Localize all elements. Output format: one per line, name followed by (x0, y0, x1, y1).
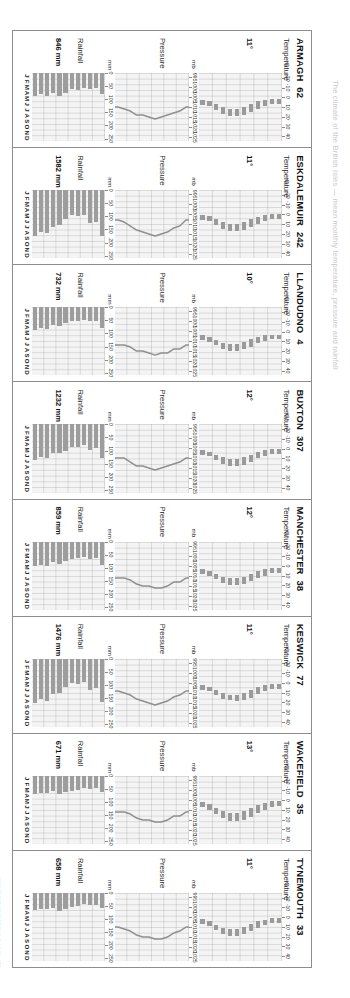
month-label: A (24, 348, 31, 352)
rainfall-axis-unit: mm (107, 646, 114, 656)
pressure-axis-tickmark (189, 957, 192, 958)
month-label: J (24, 894, 31, 897)
rainfall-bar (82, 307, 86, 320)
station-header: BUXTON307 (292, 384, 307, 496)
temperature-axis-tickmark (282, 332, 285, 333)
rainfall-axis-tick: 200 (108, 941, 114, 950)
temperature-range-bar (235, 224, 239, 231)
temperature-range-bar (249, 574, 253, 582)
month-axis: JFMAMJJASOND (21, 73, 32, 141)
rainfall-bar (63, 190, 67, 219)
rainfall-axis-tick: 250 (108, 368, 114, 377)
temperature-axis-tick: 10 (285, 338, 291, 344)
temperature-range-bar (270, 801, 274, 807)
temperature-range-bar (270, 449, 274, 454)
pressure-axis-tickmark (189, 800, 192, 801)
rainfall-axis-tick: 100 (108, 446, 114, 455)
rainfall-axis-tickmark (105, 802, 108, 803)
pressure-axis-tick: 995 (192, 775, 198, 784)
pressure-axis-tickmark (189, 224, 192, 225)
temperature-axis-tick: 0 (285, 213, 291, 216)
month-label: S (24, 119, 31, 123)
month-label: F (24, 197, 31, 201)
temperature-axis-tickmark (282, 361, 285, 362)
temperature-axis: °C403020100-10-20 (282, 190, 292, 258)
pressure-axis-tickmark (189, 137, 192, 138)
pressure-line (115, 893, 189, 961)
station-panel[interactable]: MANCHESTER38Temperature12°°C403020100-10… (13, 500, 311, 617)
temperature-axis-tickmark (282, 956, 285, 957)
temperature-range-bar (256, 217, 260, 224)
pressure-axis-tick: 995 (192, 73, 198, 82)
month-label: N (24, 950, 31, 954)
pressure-axis-tickmark (189, 703, 192, 704)
month-label: D (24, 253, 31, 257)
station-header: WAKEFIELD35 (292, 736, 307, 848)
temperature-axis-tick: -10 (285, 435, 291, 443)
pressure-chart: Pressuremb102510201015101010051000995 (115, 33, 199, 145)
temperature-range-bar (235, 578, 239, 585)
rainfall-bar (39, 776, 43, 793)
temperature-chart-label: Temperature (282, 38, 291, 81)
temperature-axis-tick: 40 (285, 719, 291, 725)
rainfall-bar (88, 424, 92, 450)
pressure-line (115, 542, 189, 610)
temperature-range-bar (256, 452, 260, 459)
temperature-range-bar (214, 690, 218, 695)
rainfall-bar (57, 893, 61, 911)
pressure-axis-tickmark (189, 438, 192, 439)
temperature-axis-tick: 30 (285, 358, 291, 364)
rainfall-axis-tickmark (105, 958, 108, 959)
temperature-axis-tick: 30 (285, 592, 291, 598)
rainfall-axis-unit: mm (107, 177, 114, 187)
rainfall-bar (100, 307, 104, 327)
month-label: N (24, 833, 31, 837)
rainfall-axis-tickmark (105, 229, 108, 230)
temperature-axis-tick: -10 (285, 669, 291, 677)
rainfall-bar (33, 659, 37, 704)
temperature-axis-tick: 30 (285, 709, 291, 715)
month-label: A (24, 699, 31, 703)
rainfall-axis: mm250200150100500 (105, 776, 115, 844)
rainfall-bar (76, 424, 80, 446)
temperature-axis-tick: 40 (285, 368, 291, 374)
month-label: A (24, 231, 31, 235)
temperature-axis-tickmark (282, 351, 285, 352)
temperature-range-bar (201, 802, 205, 807)
month-label: M (24, 670, 31, 675)
temperature-axis-tickmark (282, 927, 285, 928)
station-panel[interactable]: WAKEFIELD35Temperature13°°C403020100-10-… (13, 734, 311, 851)
station-panel[interactable]: LLANDUDNO4Temperature10°°C403020100-10-2… (13, 265, 311, 382)
station-header: TYNEMOUTH33 (292, 853, 307, 965)
station-panel[interactable]: ESKDALEMUIR242Temperature11°°C403020100-… (13, 148, 311, 265)
station-panel[interactable]: KESWICK77Temperature11°°C403020100-10-20… (13, 617, 311, 734)
pressure-plot (115, 776, 189, 844)
rainfall-bar (51, 424, 55, 453)
pressure-chart: Pressuremb102510201015101010051000995 (115, 150, 199, 262)
rainfall-bar (57, 190, 61, 225)
rainfall-axis-tickmark (105, 464, 108, 465)
station-altitude: 38 (295, 581, 306, 592)
month-label: F (24, 782, 31, 786)
station-name: ESKDALEMUIR (295, 155, 306, 226)
station-name: MANCHESTER (295, 507, 306, 575)
temperature-range-bar (256, 101, 260, 109)
pressure-plot (115, 659, 189, 727)
rainfall-axis-tick: 200 (108, 590, 114, 599)
rainfall-total-value: 658 mm (54, 858, 63, 886)
temperature-range-bar (249, 924, 253, 931)
rainfall-chart: Rainfall859 mmmm250200150100500JFMAMJJAS… (21, 502, 115, 614)
rainfall-bar (45, 424, 49, 458)
temperature-axis-tickmark (282, 205, 285, 206)
temperature-range-bar (270, 214, 274, 219)
rainfall-bar (100, 190, 104, 236)
station-panel[interactable]: TYNEMOUTH33Temperature11°°C403020100-10-… (13, 851, 311, 967)
rainfall-plot (32, 190, 105, 258)
station-panel[interactable]: BUXTON307Temperature12°°C403020100-10-20… (13, 382, 311, 499)
station-panel[interactable]: ARMAGH62Temperature11°°C403020100-10-20P… (13, 31, 311, 148)
month-label: J (24, 543, 31, 546)
rainfall-bar (63, 542, 67, 562)
rainfall-axis-tick: 150 (108, 576, 114, 585)
rainfall-bar (51, 659, 55, 694)
rainfall-axis-tickmark (105, 776, 108, 777)
